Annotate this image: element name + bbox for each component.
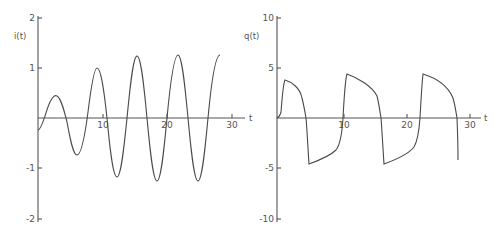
plot-q: 10 5 -5 -10 10 20 30 q(t) t xyxy=(244,13,488,224)
ytick-label: 2 xyxy=(29,13,35,23)
x-axis-label: t xyxy=(249,113,253,123)
figure: 2 1 -1 -2 10 20 30 i(t) t 10 5 -5 -10 10… xyxy=(0,0,499,236)
x-axis-label: t xyxy=(484,113,488,123)
ytick-label: -1 xyxy=(26,163,35,173)
ytick-label: 10 xyxy=(263,13,275,23)
ytick-label: -10 xyxy=(259,214,274,224)
y-axis-label: i(t) xyxy=(14,31,26,41)
ytick-label: 1 xyxy=(29,63,35,73)
ytick-label: 5 xyxy=(268,63,274,73)
curve-q xyxy=(277,74,458,164)
xtick-label: 30 xyxy=(226,120,238,130)
xtick-label: 30 xyxy=(464,120,476,130)
xtick-label: 10 xyxy=(338,120,350,130)
y-axis-label: q(t) xyxy=(244,31,259,41)
plot-i: 2 1 -1 -2 10 20 30 i(t) t xyxy=(14,13,253,224)
ytick-label: -5 xyxy=(265,163,274,173)
xtick-label: 20 xyxy=(401,120,413,130)
ytick-label: -2 xyxy=(26,214,35,224)
